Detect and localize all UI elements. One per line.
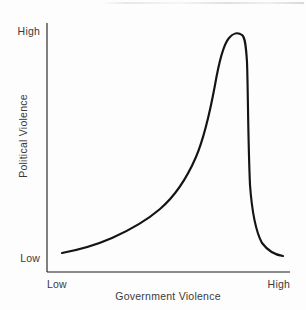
chart-figure: High Low Low High Political Violence Gov… — [0, 0, 306, 310]
x-axis-high-tick-label: High — [268, 278, 290, 290]
y-axis-high-tick-label: High — [18, 25, 40, 37]
data-series-group — [62, 33, 283, 256]
axes-group — [47, 23, 290, 272]
x-axis-title: Government Violence — [115, 290, 221, 302]
axis-titles-group: Political Violence Government Violence — [17, 94, 221, 302]
y-axis-title: Political Violence — [17, 94, 29, 178]
chart-plot-area: High Low Low High Political Violence Gov… — [0, 0, 306, 310]
y-axis-low-tick-label: Low — [20, 252, 40, 264]
political-violence-curve — [62, 33, 283, 256]
x-axis-low-tick-label: Low — [47, 278, 67, 290]
